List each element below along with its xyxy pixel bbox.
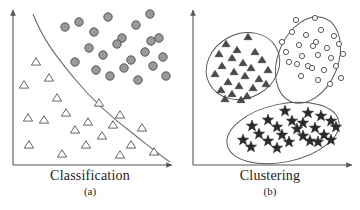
marker-filled-triangle [230, 68, 238, 74]
marker-open-circle [293, 17, 298, 22]
marker-open-circle [315, 52, 320, 57]
marker-filled-circle [106, 72, 114, 80]
marker-filled-circle [99, 51, 107, 59]
marker-filled-circle [146, 10, 154, 18]
panel-b-caption-block: Clustering (b) [180, 168, 360, 197]
marker-filled-star [262, 135, 273, 146]
marker-filled-star [276, 129, 287, 140]
marker-filled-triangle [239, 59, 247, 65]
panel-clustering [193, 7, 353, 173]
marker-filled-star [246, 120, 257, 131]
marker-filled-circle [155, 34, 163, 42]
marker-open-circle [324, 45, 329, 50]
marker-filled-circle [75, 18, 83, 26]
marker-open-triangle [31, 58, 40, 65]
marker-open-circle [313, 39, 318, 44]
marker-open-triangle [149, 148, 158, 155]
marker-open-triangle [97, 132, 106, 139]
marker-open-triangle [115, 111, 124, 118]
marker-filled-triangle [217, 86, 225, 92]
marker-filled-circle [159, 53, 167, 61]
marker-open-circle [338, 75, 343, 80]
marker-filled-triangle [228, 54, 236, 60]
marker-filled-star [279, 105, 290, 116]
marker-filled-triangle [244, 33, 252, 39]
panel-classification [13, 10, 172, 165]
marker-open-circle [309, 65, 314, 70]
marker-filled-triangle [247, 64, 255, 70]
marker-filled-circle [147, 37, 155, 45]
marker-filled-star [245, 141, 256, 152]
marker-open-triangle [108, 121, 117, 128]
marker-filled-circle [85, 44, 93, 52]
marker-filled-triangle [262, 80, 270, 86]
marker-filled-circle [134, 76, 142, 84]
cluster-outlines [194, 7, 352, 173]
marker-filled-triangle [218, 62, 226, 68]
marker-open-circle [315, 77, 320, 82]
marker-filled-circle [104, 13, 112, 21]
marker-open-circle [298, 73, 303, 78]
marker-open-circle [336, 41, 341, 46]
marker-open-circle [331, 33, 336, 38]
marker-filled-triangle [243, 92, 251, 98]
panel-b-sublabel: (b) [180, 185, 360, 197]
marker-open-circle [279, 39, 284, 44]
marker-open-circle [327, 81, 332, 86]
marker-filled-circle [61, 23, 69, 31]
marker-open-triangle [39, 116, 48, 123]
marker-open-triangle [52, 94, 61, 101]
panel-a-data-markers [19, 10, 170, 158]
marker-open-circle [283, 49, 288, 54]
marker-filled-triangle [258, 56, 266, 62]
marker-filled-circle [127, 56, 135, 64]
marker-open-circle [289, 29, 294, 34]
marker-open-circle [333, 63, 338, 68]
marker-filled-star [302, 107, 313, 118]
marker-filled-star [286, 115, 297, 126]
marker-filled-star [271, 121, 282, 132]
decision-boundary [33, 14, 170, 162]
marker-filled-triangle [241, 72, 249, 78]
marker-filled-triangle [233, 46, 241, 52]
marker-open-triangle [81, 141, 90, 148]
marker-filled-star [262, 114, 273, 125]
marker-open-circle [340, 51, 345, 56]
marker-open-circle [299, 53, 304, 58]
marker-filled-triangle [228, 90, 236, 96]
marker-open-triangle [19, 81, 28, 88]
marker-open-triangle [137, 124, 146, 131]
marker-filled-triangle [255, 75, 263, 81]
marker-open-triangle [70, 126, 79, 133]
marker-filled-triangle [224, 78, 232, 84]
decision-boundary-curve [33, 14, 170, 162]
marker-open-triangle [24, 141, 33, 148]
marker-filled-circle [90, 28, 98, 36]
panel-a-title: Classification [0, 168, 180, 184]
marker-filled-circle [71, 58, 79, 66]
marker-open-triangle [61, 109, 70, 116]
marker-open-circle [303, 32, 308, 37]
marker-open-triangle [57, 150, 66, 157]
marker-filled-star [237, 134, 248, 145]
marker-filled-star [271, 142, 282, 153]
marker-open-circle [328, 55, 333, 60]
marker-filled-star [309, 122, 320, 133]
marker-filled-circle [162, 72, 170, 80]
marker-open-triangle [23, 114, 32, 121]
marker-open-triangle [115, 151, 124, 158]
marker-filled-circle [92, 66, 100, 74]
marker-filled-triangle [264, 66, 272, 72]
marker-filled-circle [141, 48, 149, 56]
marker-open-circle [321, 67, 326, 72]
marker-open-triangle [126, 141, 135, 148]
marker-filled-circle [120, 64, 128, 72]
marker-filled-triangle [235, 82, 243, 88]
marker-filled-triangle [251, 48, 259, 54]
marker-filled-circle [149, 62, 157, 70]
marker-open-circle [296, 42, 301, 47]
marker-open-triangle [83, 118, 92, 125]
marker-open-circle [294, 61, 299, 66]
marker-filled-triangle [215, 50, 223, 56]
marker-open-circle [286, 59, 291, 64]
